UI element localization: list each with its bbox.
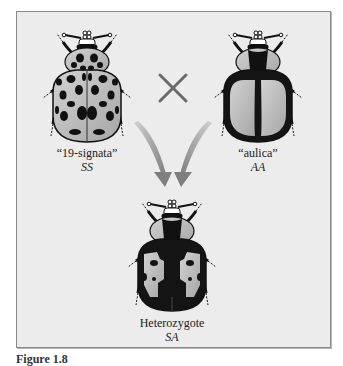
parent-left-genotype: SS — [57, 160, 118, 174]
offspring-genotype: SA — [140, 330, 205, 344]
arrow-right — [174, 121, 212, 187]
parent-left-label: “19-signata” SS — [57, 146, 118, 174]
caption-label: Figure 1.8 — [16, 352, 68, 366]
parent-right-morph: “aulica” — [238, 146, 277, 160]
beetle-heterozygote — [128, 200, 216, 311]
beetle-19-signata — [43, 31, 131, 142]
arrow-left — [134, 121, 172, 187]
parent-right-genotype: AA — [238, 160, 277, 174]
parent-left-morph: “19-signata” — [57, 146, 118, 160]
beetle-aulica — [214, 31, 302, 142]
parent-right-label: “aulica” AA — [238, 146, 277, 174]
cross-symbol — [160, 75, 186, 101]
offspring-morph: Heterozygote — [140, 316, 205, 330]
offspring-label: Heterozygote SA — [140, 316, 205, 344]
figure-caption: Figure 1.8 — [16, 352, 68, 366]
